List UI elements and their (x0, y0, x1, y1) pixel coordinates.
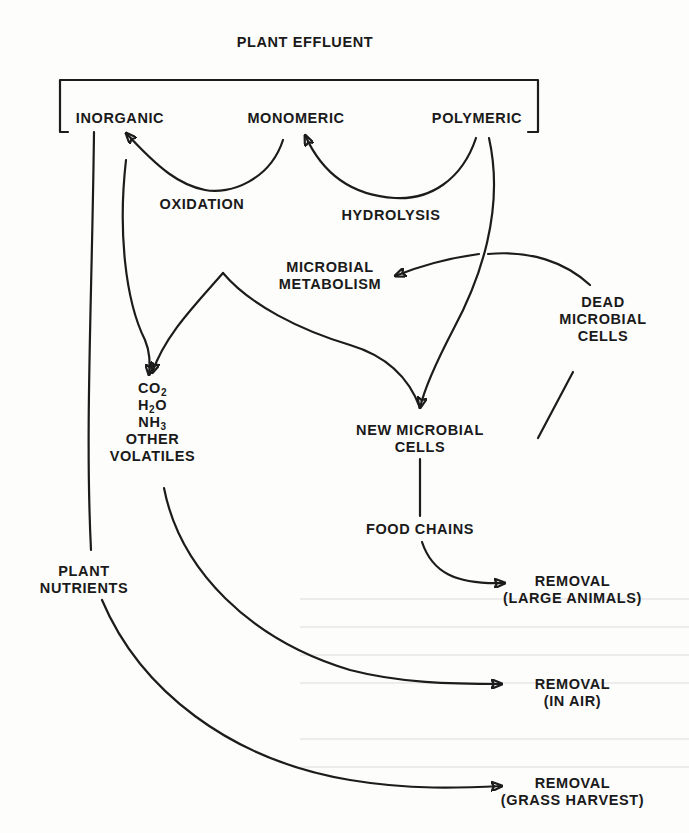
label-new-microbial-cells: NEW MICROBIAL CELLS (345, 422, 495, 456)
arrow-metabolism-to-new-cells (223, 273, 420, 408)
line-inorganic-to-plant-nutrients (89, 132, 94, 550)
arc-dead-cells (488, 253, 590, 285)
formula-h2o: H2O (100, 397, 205, 414)
arrow-polymeric-to-new-cells (420, 138, 494, 408)
label-volatiles: CO2 H2O NH3 OTHER VOLATILES (100, 380, 205, 465)
formula-co2: CO2 (100, 380, 205, 397)
arrow-nutrients-to-removal-grass (102, 600, 502, 788)
label-plant-nutrients: PLANT NUTRIENTS (28, 563, 140, 597)
arrow-inorganic-to-volatiles (123, 160, 150, 375)
label-removal-grass-harvest: REMOVAL (GRASS HARVEST) (485, 775, 660, 809)
label-food-chains: FOOD CHAINS (355, 521, 485, 538)
label-monomeric: MONOMERIC (240, 110, 352, 127)
label-polymeric: POLYMERIC (425, 110, 529, 127)
arrow-oxidation (126, 133, 283, 191)
label-inorganic: INORGANIC (68, 110, 172, 127)
diagram-page: PLANT EFFLUENT INORGANIC MONOMERIC POLYM… (0, 0, 689, 833)
label-microbial-metabolism: MICROBIAL METABOLISM (265, 259, 395, 293)
arrow-volatiles-to-removal-air (164, 488, 502, 684)
label-hydrolysis: HYDROLYSIS (335, 207, 447, 224)
label-oxidation: OXIDATION (152, 196, 252, 213)
label-removal-large-animals: REMOVAL (LARGE ANIMALS) (485, 573, 660, 607)
diagram-title: PLANT EFFLUENT (215, 34, 395, 51)
label-dead-microbial-cells: DEAD MICROBIAL CELLS (548, 294, 658, 345)
arrow-hydrolysis (305, 135, 476, 198)
arrow-metabolism-to-volatiles (152, 273, 223, 373)
label-removal-in-air: REMOVAL (IN AIR) (485, 676, 660, 710)
arrow-dead-to-metabolism (395, 254, 479, 276)
formula-nh3: NH3 (100, 414, 205, 431)
line-new-to-dead-cells (538, 372, 573, 438)
